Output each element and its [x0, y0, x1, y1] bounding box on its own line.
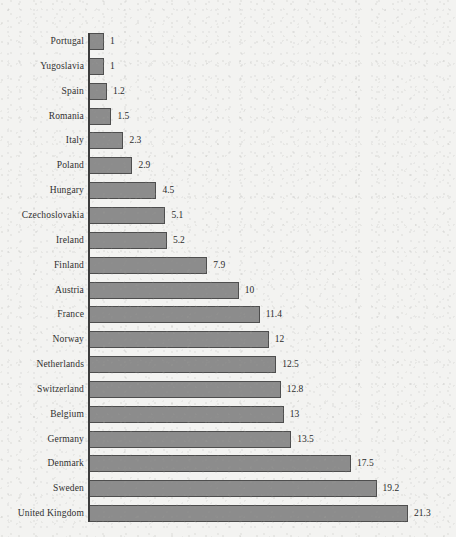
- bar-row: Hungary4.5: [0, 182, 456, 208]
- bar-value-label: 10: [245, 282, 255, 299]
- bar-row: Switzerland12.8: [0, 381, 456, 407]
- bar: [89, 257, 207, 274]
- bar: [89, 455, 351, 472]
- bar-row: Norway12: [0, 331, 456, 357]
- bar: [89, 480, 377, 497]
- category-label: Norway: [0, 331, 84, 348]
- category-label: Hungary: [0, 182, 84, 199]
- bar-value-label: 11.4: [266, 306, 282, 323]
- bar: [89, 132, 123, 149]
- bar-value-label: 4.5: [162, 182, 174, 199]
- bar: [89, 207, 165, 224]
- bar: [89, 33, 104, 50]
- category-label: Switzerland: [0, 381, 84, 398]
- bar-value-label: 13: [290, 406, 300, 423]
- bar-value-label: 7.9: [213, 257, 225, 274]
- bar-row: United Kingdom21.3: [0, 505, 456, 531]
- bar-row: Belgium13: [0, 406, 456, 432]
- bar-row: Italy2.3: [0, 132, 456, 158]
- bar-row: Finland7.9: [0, 257, 456, 283]
- bar-row: Romania1.5: [0, 108, 456, 134]
- bar-row: Ireland5.2: [0, 232, 456, 258]
- bar: [89, 356, 276, 373]
- bar-value-label: 1.5: [117, 108, 129, 125]
- category-label: Romania: [0, 108, 84, 125]
- bar-value-label: 1: [110, 58, 115, 75]
- category-label: Poland: [0, 157, 84, 174]
- category-label: Portugal: [0, 33, 84, 50]
- category-label: Belgium: [0, 406, 84, 423]
- bar: [89, 182, 156, 199]
- bar-row: Denmark17.5: [0, 455, 456, 481]
- category-label: Denmark: [0, 455, 84, 472]
- bar-value-label: 12.5: [282, 356, 299, 373]
- bar-value-label: 17.5: [357, 455, 374, 472]
- bar: [89, 58, 104, 75]
- bar: [89, 381, 281, 398]
- bar-value-label: 5.2: [173, 232, 185, 249]
- bar-value-label: 2.9: [138, 157, 150, 174]
- bar-row: Sweden19.2: [0, 480, 456, 506]
- category-label: United Kingdom: [0, 505, 84, 522]
- bar-row: Austria10: [0, 282, 456, 308]
- bar-value-label: 12.8: [287, 381, 304, 398]
- bar-value-label: 19.2: [383, 480, 400, 497]
- bar-row: Spain1.2: [0, 83, 456, 109]
- category-label: Sweden: [0, 480, 84, 497]
- bar-row: France11.4: [0, 306, 456, 332]
- bar: [89, 282, 239, 299]
- bar-value-label: 5.1: [171, 207, 183, 224]
- category-label: Germany: [0, 431, 84, 448]
- category-label: Czechoslovakia: [0, 207, 84, 224]
- bar-value-label: 1: [110, 33, 115, 50]
- bar: [89, 83, 107, 100]
- bar-value-label: 1.2: [113, 83, 125, 100]
- bar-value-label: 2.3: [129, 132, 141, 149]
- category-label: Ireland: [0, 232, 84, 249]
- bar: [89, 108, 111, 125]
- category-label: Yugoslavia: [0, 58, 84, 75]
- bar-row: Poland2.9: [0, 157, 456, 183]
- bar-row: Netherlands12.5: [0, 356, 456, 382]
- bar-value-label: 13.5: [297, 431, 314, 448]
- category-label: Austria: [0, 282, 84, 299]
- bar-row: Yugoslavia1: [0, 58, 456, 84]
- bar: [89, 232, 167, 249]
- bar: [89, 157, 132, 174]
- bar-row: Portugal1: [0, 33, 456, 59]
- bar: [89, 406, 284, 423]
- category-label: France: [0, 306, 84, 323]
- bar: [89, 331, 269, 348]
- bar-value-label: 12: [275, 331, 285, 348]
- bar-value-label: 21.3: [414, 505, 431, 522]
- horizontal-bar-chart: Portugal1Yugoslavia1Spain1.2Romania1.5It…: [0, 0, 456, 537]
- bar: [89, 431, 291, 448]
- bar-row: Czechoslovakia5.1: [0, 207, 456, 233]
- bar-row: Germany13.5: [0, 431, 456, 457]
- category-label: Netherlands: [0, 356, 84, 373]
- category-label: Finland: [0, 257, 84, 274]
- value-axis-line: [88, 33, 90, 522]
- category-label: Italy: [0, 132, 84, 149]
- category-label: Spain: [0, 83, 84, 100]
- bar: [89, 505, 408, 522]
- bar: [89, 306, 260, 323]
